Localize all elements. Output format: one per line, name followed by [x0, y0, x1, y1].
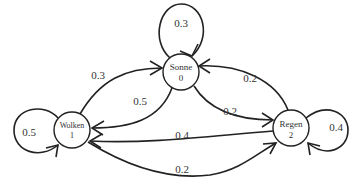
edge-sonne-sonne: [159, 4, 203, 58]
label-sonne-sonne: 0.3: [174, 17, 188, 29]
node-regen-index: 2: [289, 130, 294, 140]
node-wolken-name: Wolken: [60, 121, 85, 130]
label-sonne-regen: 0.2: [223, 105, 237, 117]
label-wolken-sonne: 0.3: [91, 69, 105, 81]
label-regen-wolken: 0.4: [175, 129, 189, 141]
node-sonne-name: Sonne: [170, 62, 193, 72]
node-regen: Regen 2: [273, 110, 309, 146]
node-wolken: Wolken 1: [54, 112, 90, 148]
label-regen-sonne: 0.2: [243, 72, 257, 84]
edge-sonne-wolken: [92, 88, 172, 128]
node-wolken-index: 1: [70, 131, 74, 140]
label-regen-regen: 0.4: [329, 121, 343, 133]
node-sonne-index: 0: [179, 73, 184, 83]
node-regen-name: Regen: [280, 119, 303, 129]
label-wolken-wolken: 0.5: [22, 126, 36, 138]
markov-diagram: Sonne 0 Wolken 1 Regen 2 0.3 0.5 0.4 0.3…: [0, 0, 363, 189]
label-sonne-wolken: 0.5: [133, 95, 147, 107]
label-wolken-regen: 0.2: [175, 163, 189, 175]
node-sonne: Sonne 0: [163, 54, 199, 90]
